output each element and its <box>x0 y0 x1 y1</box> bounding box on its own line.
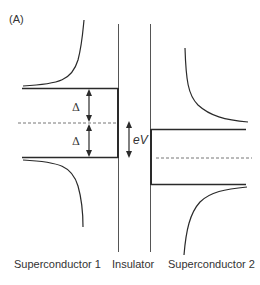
arrow-up-icon <box>86 124 92 131</box>
sc2-dos-lower-curve <box>184 187 247 255</box>
arrow-down-icon <box>86 150 92 157</box>
delta-lower-label: Δ <box>72 135 80 148</box>
delta-upper-label: Δ <box>72 101 80 114</box>
sc1-dos-lower-curve <box>23 160 83 227</box>
arrow-down-icon <box>86 115 92 122</box>
insulator-label: Insulator <box>112 258 154 270</box>
arrow-up-icon <box>126 121 132 128</box>
ev-label: eV <box>133 133 148 147</box>
panel-label: (A) <box>9 13 24 25</box>
arrow-up-icon <box>86 89 92 96</box>
superconductor-1-label: Superconductor 1 <box>14 258 101 270</box>
energy-diagram <box>0 0 260 285</box>
sc1-dos-upper-curve <box>23 20 84 86</box>
superconductor-2-label: Superconductor 2 <box>168 258 255 270</box>
arrow-down-icon <box>126 151 132 158</box>
tunneling-diagram: (A) Δ Δ eV Superconductor 1 Insulator Su… <box>0 0 260 285</box>
sc2-dos-upper-curve <box>185 48 248 122</box>
